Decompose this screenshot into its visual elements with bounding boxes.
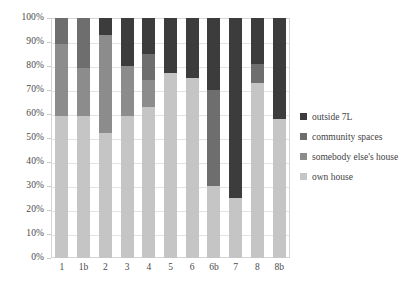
chart-legend: outside 7Lcommunity spacessomebody else'… [300, 111, 416, 191]
legend-item-label: outside 7L [312, 112, 352, 122]
y-axis-tick-label: 50% [0, 133, 44, 143]
bar-segment[interactable] [251, 18, 264, 64]
bar-segment[interactable] [55, 44, 68, 116]
legend-item-label: community spaces [312, 132, 382, 142]
x-axis-tick-label: 8b [264, 262, 294, 272]
bar-column[interactable] [99, 18, 112, 258]
bar-column[interactable] [229, 18, 242, 258]
bar-segment[interactable] [121, 116, 134, 258]
legend-item-label: somebody else's house [312, 152, 398, 162]
bar-segment[interactable] [273, 119, 286, 258]
bar-segment[interactable] [142, 80, 155, 106]
bar-segment[interactable] [77, 68, 90, 116]
bar-segment[interactable] [207, 18, 220, 90]
bar-column[interactable] [121, 18, 134, 258]
legend-item[interactable]: own house [300, 171, 416, 182]
bar-segment[interactable] [99, 133, 112, 258]
bar-series-layer [51, 18, 290, 258]
bar-segment[interactable] [99, 35, 112, 133]
y-axis-tick-label: 40% [0, 157, 44, 167]
legend-swatch-icon [300, 173, 307, 180]
bar-segment[interactable] [186, 18, 199, 78]
y-axis-tick-label: 80% [0, 61, 44, 71]
y-axis-tick-label: 30% [0, 181, 44, 191]
y-axis-tick-label: 60% [0, 109, 44, 119]
y-axis-tick-label: 70% [0, 85, 44, 95]
bar-segment[interactable] [229, 198, 242, 258]
bar-segment[interactable] [207, 186, 220, 258]
bar-segment[interactable] [55, 116, 68, 258]
stacked-bar-chart: 100%90%80%70%60%50%40%30%20%10%0% 11b234… [0, 0, 418, 284]
bar-segment[interactable] [142, 18, 155, 54]
bar-segment[interactable] [99, 18, 112, 35]
legend-item[interactable]: somebody else's house [300, 151, 416, 162]
y-axis-tick-label: 90% [0, 37, 44, 47]
bar-column[interactable] [142, 18, 155, 258]
bar-segment[interactable] [164, 73, 177, 258]
bar-segment[interactable] [77, 116, 90, 258]
bar-segment[interactable] [77, 18, 90, 68]
legend-item-label: own house [312, 172, 353, 182]
bar-segment[interactable] [229, 18, 242, 198]
bar-segment[interactable] [121, 18, 134, 66]
bar-segment[interactable] [251, 64, 264, 83]
bar-segment[interactable] [186, 78, 199, 258]
bar-column[interactable] [55, 18, 68, 258]
bar-segment[interactable] [121, 66, 134, 116]
legend-swatch-icon [300, 113, 307, 120]
bar-column[interactable] [186, 18, 199, 258]
bar-segment[interactable] [251, 83, 264, 258]
y-axis-tick-mark [47, 258, 51, 259]
bar-segment[interactable] [207, 90, 220, 186]
bar-segment[interactable] [142, 107, 155, 258]
y-axis-tick-label: 10% [0, 229, 44, 239]
legend-swatch-icon [300, 153, 307, 160]
y-axis-tick-label: 20% [0, 205, 44, 215]
bar-segment[interactable] [55, 18, 68, 44]
bar-segment[interactable] [164, 18, 177, 73]
bar-column[interactable] [77, 18, 90, 258]
bar-column[interactable] [164, 18, 177, 258]
y-axis-tick-label: 0% [0, 253, 44, 263]
legend-swatch-icon [300, 133, 307, 140]
bar-segment[interactable] [273, 18, 286, 119]
bar-column[interactable] [207, 18, 220, 258]
bar-column[interactable] [251, 18, 264, 258]
bar-column[interactable] [273, 18, 286, 258]
bar-segment[interactable] [142, 54, 155, 80]
legend-item[interactable]: community spaces [300, 131, 416, 142]
y-axis-tick-label: 100% [0, 13, 44, 23]
legend-item[interactable]: outside 7L [300, 111, 416, 122]
